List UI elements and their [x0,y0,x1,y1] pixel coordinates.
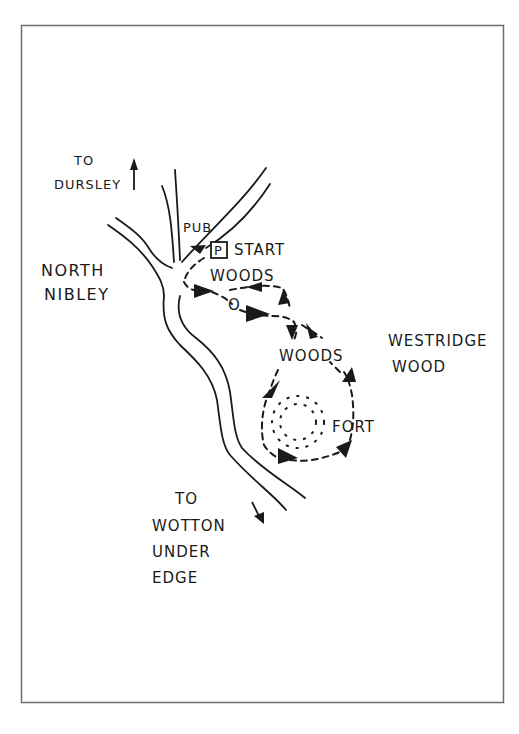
label-start: START [234,241,285,259]
label-under: UNDER [152,543,211,561]
label-to-wotton: TO [174,490,198,508]
label-wotton: WOTTON [152,517,226,535]
label-woods-top: WOODS [210,267,275,285]
label-to-dursley: TO [73,153,94,168]
label-wood: WOOD [392,358,446,376]
label-westridge: WESTRIDGE [388,332,488,350]
walk-map: P TO [0,0,519,734]
label-woods-middle: WOODS [279,347,344,365]
label-nibley: NIBLEY [44,285,109,304]
label-edge: EDGE [152,569,198,587]
parking-label: P [214,243,223,258]
parking-marker: P [211,242,227,258]
label-north: NORTH [41,261,105,280]
label-pub: PUB [183,220,212,235]
label-landmark-o: O [228,296,241,314]
label-dursley: DURSLEY [54,177,121,192]
label-fort: FORT [332,418,375,436]
